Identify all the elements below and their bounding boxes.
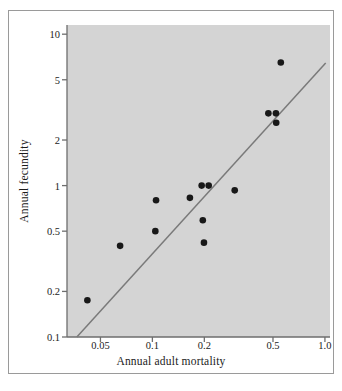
y-axis-tick-labels: 105210.50.20.1 xyxy=(0,0,60,391)
data-point xyxy=(201,239,208,246)
y-tick-label: 0.1 xyxy=(8,332,60,343)
x-tick-label: 0.5 xyxy=(266,340,279,351)
figure-container: 0.050.10.20.51.0 105210.50.20.1 Annual a… xyxy=(0,0,342,391)
x-tick-label: 0.2 xyxy=(198,340,211,351)
y-tick-label: 2 xyxy=(8,135,60,146)
data-point xyxy=(265,110,272,117)
y-tick-label: 5 xyxy=(8,74,60,85)
data-point xyxy=(231,187,238,194)
y-axis-tick-marks xyxy=(62,34,67,337)
y-tick-label: 1 xyxy=(8,180,60,191)
data-point xyxy=(152,228,159,235)
x-axis-tick-marks xyxy=(100,337,324,342)
data-point xyxy=(84,297,91,304)
x-tick-label: 1.0 xyxy=(318,340,331,351)
data-point xyxy=(273,110,280,117)
y-tick-label: 10 xyxy=(8,29,60,40)
y-tick-label: 0.5 xyxy=(8,226,60,237)
data-point xyxy=(205,182,212,189)
data-point xyxy=(273,119,280,126)
data-point xyxy=(153,197,160,204)
x-tick-label: 0.05 xyxy=(91,340,109,351)
y-axis-title: Annual fecundity xyxy=(18,91,30,271)
plot-background xyxy=(67,25,330,337)
data-point xyxy=(278,59,285,66)
data-point xyxy=(198,182,205,189)
data-point xyxy=(200,217,207,224)
y-tick-label: 0.2 xyxy=(8,286,60,297)
data-point xyxy=(187,195,194,202)
x-axis-title: Annual adult mortality xyxy=(0,355,342,367)
data-point xyxy=(117,243,124,250)
x-tick-label: 0.1 xyxy=(146,340,159,351)
